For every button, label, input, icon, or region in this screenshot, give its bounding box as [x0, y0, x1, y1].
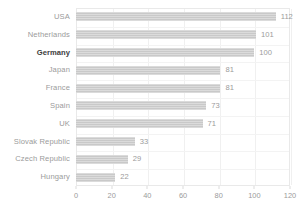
bar[interactable] [76, 66, 220, 75]
bar-row: Czech Republic29 [0, 150, 306, 168]
bar-chart: USA112Netherlands101Germany100Japan81Fra… [0, 0, 306, 215]
category-label: Japan [0, 66, 70, 74]
bar-value-label: 100 [259, 49, 272, 57]
bar-value-label: 29 [133, 155, 141, 163]
bar[interactable] [76, 30, 256, 39]
category-label: Netherlands [0, 31, 70, 39]
x-tick-mark [76, 186, 77, 189]
x-tick-label: 40 [143, 192, 151, 199]
x-tick-mark [111, 186, 112, 189]
category-label: Hungary [0, 173, 70, 181]
bar-track: 100 [76, 44, 306, 62]
x-tick-mark [183, 186, 184, 189]
bar-track: 22 [76, 168, 306, 186]
category-label: Spain [0, 102, 70, 110]
bar-track: 33 [76, 133, 306, 151]
bar[interactable] [76, 12, 276, 21]
x-axis: 020406080100120 [76, 186, 290, 208]
bar-track: 71 [76, 115, 306, 133]
bar-value-label: 73 [211, 102, 219, 110]
category-label: France [0, 84, 70, 92]
category-label: UK [0, 120, 70, 128]
bar[interactable] [76, 137, 135, 146]
bar-track: 29 [76, 150, 306, 168]
bar-row: Japan81 [0, 61, 306, 79]
bar-value-label: 101 [261, 31, 274, 39]
bar-row: Netherlands101 [0, 26, 306, 44]
bar-track: 81 [76, 79, 306, 97]
bar[interactable] [76, 101, 206, 110]
category-label: Czech Republic [0, 155, 70, 163]
bar-value-label: 71 [208, 120, 216, 128]
bar-row: Spain73 [0, 97, 306, 115]
x-tick-label: 100 [248, 192, 260, 199]
bar-track: 81 [76, 61, 306, 79]
x-tick-label: 20 [108, 192, 116, 199]
bar-value-label: 22 [120, 173, 128, 181]
bar-row: Slovak Republic33 [0, 133, 306, 151]
bar-row: USA112 [0, 8, 306, 26]
bar-row: UK71 [0, 115, 306, 133]
x-tick-mark [147, 186, 148, 189]
bar-track: 73 [76, 97, 306, 115]
bar-value-label: 81 [225, 84, 233, 92]
x-tick-mark [254, 186, 255, 189]
bar-value-label: 33 [140, 138, 148, 146]
bar-row: France81 [0, 79, 306, 97]
x-tick-label: 60 [179, 192, 187, 199]
x-tick-mark [290, 186, 291, 189]
x-tick-mark [218, 186, 219, 189]
category-label: USA [0, 13, 70, 21]
bar[interactable] [76, 119, 203, 128]
bar[interactable] [76, 173, 115, 182]
x-tick-label: 0 [74, 192, 78, 199]
bar-value-label: 112 [281, 13, 293, 21]
category-label: Germany [0, 49, 70, 57]
bar-value-label: 81 [225, 66, 233, 74]
x-tick-label: 120 [284, 192, 296, 199]
bar-track: 101 [76, 26, 306, 44]
bar[interactable] [76, 84, 220, 93]
bar-row: Hungary22 [0, 168, 306, 186]
category-label: Slovak Republic [0, 138, 70, 146]
bar[interactable] [76, 48, 254, 57]
bar[interactable] [76, 155, 128, 164]
x-tick-label: 80 [215, 192, 223, 199]
bar-track: 112 [76, 8, 306, 26]
bar-row: Germany100 [0, 44, 306, 62]
